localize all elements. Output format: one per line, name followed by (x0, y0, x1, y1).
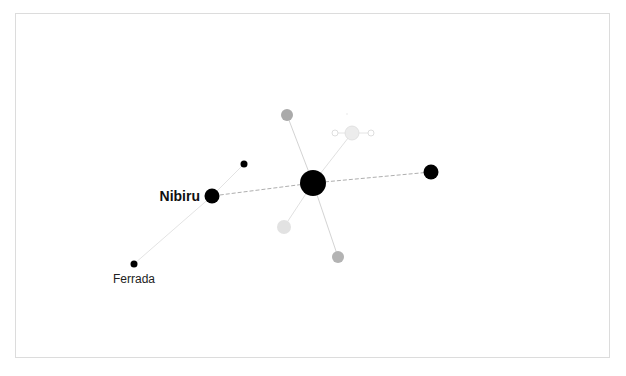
node-ferrada[interactable] (131, 261, 138, 268)
network-graph[interactable]: Nibiru Ferrada (0, 0, 626, 376)
label-nibiru: Nibiru (160, 188, 200, 204)
edge-hub-right (313, 172, 431, 183)
node-faint-dot (346, 113, 348, 115)
node-light-bottom-left[interactable] (277, 220, 291, 234)
node-grey-bottom[interactable] (332, 251, 344, 263)
node-ring-right[interactable] (368, 130, 374, 136)
edge-hub-nibiru (212, 183, 313, 196)
node-right[interactable] (424, 165, 439, 180)
edge-nibiru-ferrada (134, 196, 212, 264)
node-nibiru[interactable] (205, 189, 220, 204)
node-grey-top[interactable] (281, 109, 293, 121)
node-light-top-right[interactable] (345, 126, 359, 140)
node-hub[interactable] (300, 170, 326, 196)
label-ferrada: Ferrada (113, 272, 155, 286)
node-ring-left[interactable] (332, 130, 338, 136)
node-small-top[interactable] (241, 161, 248, 168)
